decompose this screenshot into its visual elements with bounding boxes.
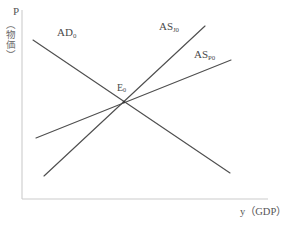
ad-as-diagram: P （物価） AD0 ASJ0 ASP0 E0 y（GDP）	[0, 0, 283, 227]
x-axis-label: y（GDP）	[240, 207, 283, 218]
equilibrium-label-e0: E0	[117, 83, 126, 93]
y-axis-symbol: P	[13, 6, 19, 17]
curve-label-as-j0-subscript: J0	[173, 26, 179, 33]
equilibrium-point-marker	[123, 101, 126, 104]
curve-label-ad0-subscript: 0	[73, 32, 76, 39]
equilibrium-label-e0-subscript: 0	[123, 86, 126, 93]
curve-label-ad0-base: AD	[57, 26, 73, 38]
plot-canvas	[0, 0, 283, 227]
curve-label-as-p0-base: AS	[194, 48, 208, 60]
curve-label-as-j0-base: AS	[159, 20, 173, 32]
curve-label-as-j0: ASJ0	[159, 21, 179, 32]
y-axis-description: （物価）	[4, 20, 14, 60]
curve-label-as-p0: ASP0	[194, 49, 215, 60]
curve-label-as-p0-subscript: P0	[208, 54, 215, 61]
curve-as-p0	[36, 60, 231, 138]
curve-label-ad0: AD0	[57, 27, 76, 38]
